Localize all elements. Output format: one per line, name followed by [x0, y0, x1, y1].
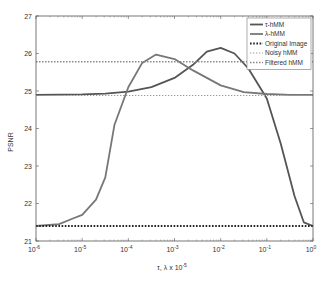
x-tick-label: 10-5 — [74, 244, 86, 253]
legend: τ-hMMλ-hMMOriginal ImageNoisy hMMFiltere… — [247, 18, 311, 70]
y-tick-label: 22 — [24, 200, 32, 207]
series-line-0 — [36, 48, 313, 226]
legend-label: Noisy hMM — [265, 49, 298, 57]
y-tick-label: 24 — [24, 125, 32, 132]
x-tick-label: 10-6 — [28, 244, 40, 253]
y-tick-label: 23 — [24, 163, 32, 170]
x-axis-label: τ, λ x 10-5 — [157, 262, 187, 271]
legend-label: Original Image — [265, 40, 308, 48]
psnr-chart: 2122232425262710-610-510-410-310-210-110… — [0, 0, 333, 281]
y-tick-label: 26 — [24, 50, 32, 57]
y-axis-label: PSNR — [7, 132, 14, 151]
y-tick-label: 25 — [24, 88, 32, 95]
x-tick-label: 10-3 — [166, 244, 178, 253]
y-tick-label: 27 — [24, 13, 32, 20]
x-tick-label: 10-4 — [120, 244, 132, 253]
x-tick-label: 10-2 — [213, 244, 225, 253]
legend-label: τ-hMM — [265, 21, 284, 28]
legend-label: λ-hMM — [265, 30, 285, 37]
series-line-1 — [36, 55, 313, 226]
y-tick-label: 21 — [24, 238, 32, 245]
legend-label: Filtered hMM — [265, 59, 303, 66]
plot-lines — [36, 48, 313, 226]
x-tick-label: 10-1 — [259, 244, 271, 253]
x-tick-label: 100 — [306, 244, 317, 253]
